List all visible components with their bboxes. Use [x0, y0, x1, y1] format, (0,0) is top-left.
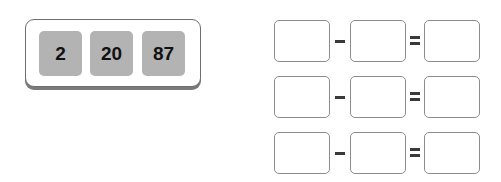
answer-box-left[interactable] [274, 132, 330, 174]
answer-box-left[interactable] [274, 76, 330, 118]
equation-row [0, 20, 501, 62]
minus-icon [333, 144, 347, 160]
answer-box-result[interactable] [424, 132, 480, 174]
equals-icon [408, 144, 422, 160]
answer-box-left[interactable] [274, 20, 330, 62]
answer-box-right[interactable] [350, 20, 406, 62]
equals-icon [408, 88, 422, 104]
answer-box-right[interactable] [350, 76, 406, 118]
minus-icon [333, 88, 347, 104]
equation-row [0, 76, 501, 118]
equation-row [0, 132, 501, 174]
answer-box-result[interactable] [424, 76, 480, 118]
minus-icon [333, 32, 347, 48]
answer-box-result[interactable] [424, 20, 480, 62]
answer-box-right[interactable] [350, 132, 406, 174]
equals-icon [408, 32, 422, 48]
